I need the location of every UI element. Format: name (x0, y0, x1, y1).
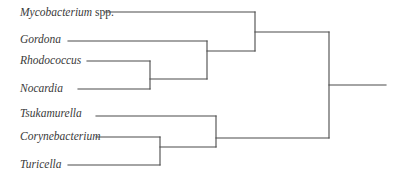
dendrogram-branches (0, 0, 403, 175)
dendrogram: Mycobacterium spp. Gordona Rhodococcus N… (0, 0, 403, 175)
